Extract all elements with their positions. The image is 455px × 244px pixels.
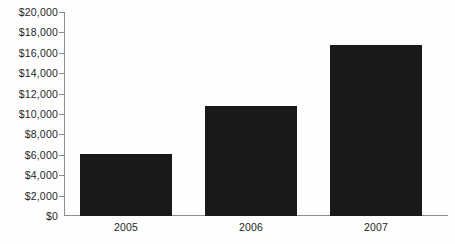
y-axis-tick-label: $14,000: [2, 68, 58, 78]
x-axis-label-group: 2005 2006 2007: [65, 220, 448, 240]
bar-2006: [205, 106, 297, 216]
y-axis-tick-label: $10,000: [2, 109, 58, 119]
y-axis-tick-label: $6,000: [2, 150, 58, 160]
x-axis-tick-label: 2006: [205, 220, 297, 234]
y-axis-tick-label: $16,000: [2, 48, 58, 58]
y-axis-tick-label: $4,000: [2, 170, 58, 180]
x-axis-tick-label: 2007: [330, 220, 422, 234]
y-axis-tick-label: $8,000: [2, 129, 58, 139]
y-axis-tick-label: $18,000: [2, 27, 58, 37]
y-axis-label-group: $20,000 $18,000 $16,000 $14,000 $12,000 …: [0, 0, 58, 244]
x-axis-tick-label: 2005: [80, 220, 172, 234]
bar-chart-figure: $20,000 $18,000 $16,000 $14,000 $12,000 …: [0, 0, 455, 244]
y-axis-tick-label: $0: [2, 211, 58, 221]
y-axis-tick-label: $12,000: [2, 89, 58, 99]
plot-area: [65, 12, 448, 216]
y-axis-tick-label: $2,000: [2, 191, 58, 201]
bar-2005: [80, 154, 172, 216]
bar-2007: [330, 45, 422, 216]
y-axis-tick-label: $20,000: [2, 7, 58, 17]
